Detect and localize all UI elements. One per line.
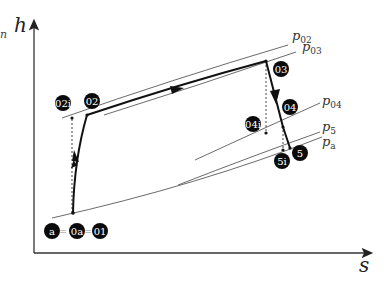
badge-0a: 0a	[69, 223, 85, 239]
svg-text:03: 03	[275, 64, 288, 75]
svg-text:02i: 02i	[55, 98, 71, 109]
svg-text:04: 04	[284, 102, 297, 113]
isobar-pa	[52, 137, 322, 218]
isobars: p02 p03 p04 p5 pa	[52, 28, 342, 218]
svg-text:0a: 0a	[71, 226, 83, 237]
badge-04i: 04i	[245, 116, 261, 132]
arrow-turbine-icon	[270, 89, 280, 104]
svg-text:5i: 5i	[277, 156, 287, 167]
isobar-label-p03: p03	[302, 39, 322, 56]
badge-a: a	[44, 223, 60, 239]
equals-sign: =	[59, 226, 67, 236]
stray-glyph: n	[0, 28, 7, 41]
svg-text:a: a	[49, 226, 55, 237]
badge-5: 5	[292, 145, 308, 161]
badge-03: 03	[273, 61, 289, 77]
hs-diagram: n h s p02 p03 p04 p5 pa	[0, 0, 388, 281]
h-axis-label: h	[14, 13, 27, 37]
equals-sign: =	[84, 226, 92, 236]
badge-01: 01	[92, 223, 108, 239]
state-dots	[70, 59, 291, 214]
ideal-lines	[72, 61, 283, 213]
s-axis-label: s	[359, 253, 369, 277]
svg-text:04i: 04i	[245, 119, 261, 130]
processes	[71, 61, 290, 213]
svg-text:02: 02	[86, 96, 99, 107]
svg-text:5: 5	[297, 148, 303, 159]
badge-02: 02	[84, 93, 100, 109]
isobar-label-p04: p04	[322, 93, 342, 110]
badge-5i: 5i	[274, 153, 290, 169]
isobar-label-pa: pa	[322, 134, 336, 151]
svg-text:01: 01	[94, 226, 107, 237]
badge-02i: 02i	[55, 95, 71, 111]
badge-04: 04	[282, 99, 298, 115]
